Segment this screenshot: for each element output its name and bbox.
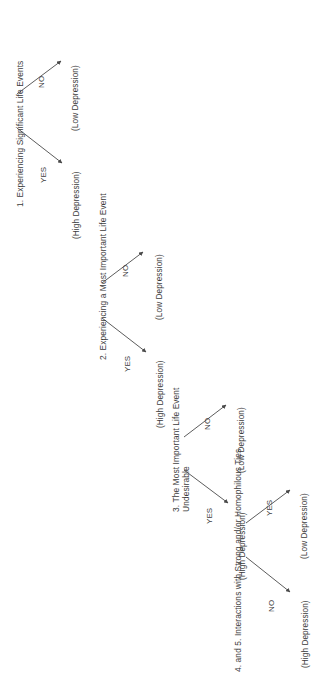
edge-label-node4-yes: YES xyxy=(266,500,274,516)
outcome-label-7: (Low Depression) xyxy=(301,493,310,559)
diagram-canvas: 1. Experiencing Significant Life Events … xyxy=(0,0,323,687)
edge-node4-no xyxy=(246,557,290,592)
edge-label-node1-no: NO xyxy=(38,76,46,88)
outcome-label-2: (High Depression) xyxy=(73,171,82,239)
edge-label-node3-yes: YES xyxy=(206,508,214,524)
node-label-3-line2: Undesirable xyxy=(182,466,191,512)
node-label-1: 1. Experiencing Significant Life Events xyxy=(16,61,25,207)
node-label-2: 2. Experiencing a Most Important Life Ev… xyxy=(99,193,108,360)
edge-label-node4-no: NO xyxy=(268,600,276,612)
outcome-label-8: (High Depression) xyxy=(302,600,311,668)
node-label-3-line1: 3. The Most Important Life Event xyxy=(172,387,181,512)
outcome-label-3: (Low Depression) xyxy=(156,254,165,320)
edge-label-node2-yes: YES xyxy=(124,356,132,372)
outcome-label-4: (High Depression) xyxy=(157,360,166,428)
edge-label-node3-no: NO xyxy=(204,418,212,430)
edge-label-node2-no: NO xyxy=(122,265,130,277)
outcome-label-1: (Low Depression) xyxy=(72,65,81,131)
edge-label-node1-yes: YES xyxy=(40,167,48,183)
node-label-4: 4. and 5. Interactions with Strong and/o… xyxy=(234,449,243,672)
edge-node2-yes xyxy=(102,318,146,352)
arrow-layer xyxy=(0,0,323,687)
